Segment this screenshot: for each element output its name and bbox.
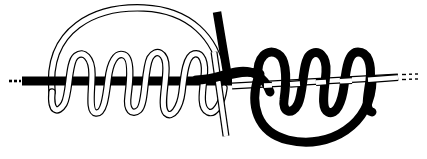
thick-strand-center-overpass <box>222 72 260 77</box>
knot-diagram-figure: Rope splice knot diagram Two strands int… <box>0 0 427 159</box>
knot-diagram-canvas: Rope splice knot diagram Two strands int… <box>0 0 427 159</box>
